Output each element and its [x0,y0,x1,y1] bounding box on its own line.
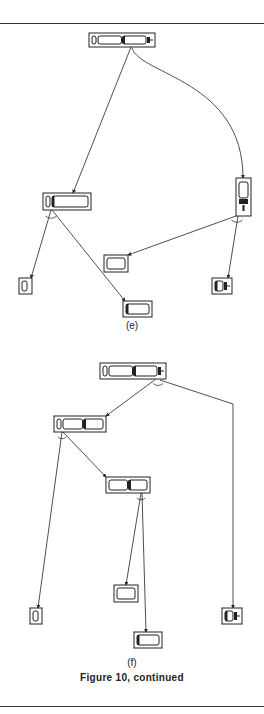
edge-arrow [38,432,62,608]
edge-arrow [31,210,51,278]
edge-arrow [132,48,243,178]
node-e-left [43,193,91,210]
node-f-leaf1 [30,608,42,624]
node-f-leaf3 [134,632,162,648]
node-f-leaf4 [222,608,242,624]
node-f-mid2 [106,477,150,493]
node-e-rr [212,278,232,294]
and-arc-icon [137,498,145,500]
and-arc-icon [58,437,66,439]
panel-label-e: (e) [0,320,264,331]
panel-label-f: (f) [0,657,264,668]
angle-arcs-layer [45,216,242,500]
nodes-layer [19,33,251,648]
node-e-right [236,178,251,216]
edges-layer [31,47,243,632]
tree-diagram [0,0,264,714]
edge-arrow [228,216,238,278]
node-e-root [89,33,155,47]
edge-arrow [160,380,233,404]
figure-caption: Figure 10, continued [0,672,264,683]
node-e-lr [123,301,152,317]
node-f-mid [54,416,106,432]
and-arc-icon [45,216,56,218]
edge-arrow [106,379,156,416]
node-e-ll [19,278,32,294]
edge-arrow [63,432,106,477]
edge-arrow [128,216,236,255]
edge-arrow [126,493,141,585]
node-f-leaf2 [114,585,138,602]
and-arc-icon [153,384,163,386]
node-e-rl [104,255,128,272]
edge-arrow [73,47,131,193]
edge-arrow [142,493,146,632]
node-f-root [100,363,166,379]
